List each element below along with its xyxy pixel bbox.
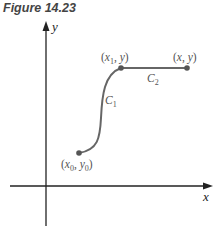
point-end (184, 65, 190, 71)
point-mid (118, 65, 124, 71)
curve-c2-label: C2 (147, 72, 159, 87)
y-axis-arrow-icon (43, 21, 50, 31)
x-axis-label: x (202, 189, 209, 204)
point-start-label: (x0, y0) (61, 158, 93, 173)
curve-c1-label: C1 (105, 94, 117, 109)
point-end-label: (x, y) (173, 51, 197, 64)
y-axis (43, 21, 50, 226)
path-diagram: y x (x0, y0) (x1, y) (x, y) C1 C2 (0, 0, 221, 226)
point-mid-label: (x1, y) (101, 51, 129, 66)
y-axis-label: y (50, 19, 58, 34)
curve-c1 (79, 68, 121, 153)
x-axis (10, 183, 213, 190)
point-start (76, 150, 82, 156)
